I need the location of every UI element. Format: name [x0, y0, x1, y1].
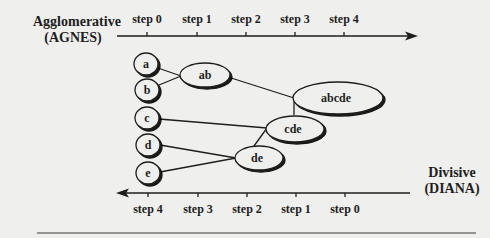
- svg-text:e: e: [145, 166, 151, 180]
- leaf-node-c: c: [135, 107, 159, 129]
- leaf-node-a: a: [134, 53, 158, 75]
- cluster-node-abcde: abcde: [293, 82, 383, 114]
- svg-text:a: a: [143, 57, 149, 71]
- cluster-node-de: de: [235, 146, 283, 170]
- svg-text:b: b: [144, 83, 151, 97]
- cluster-node-ab: ab: [180, 63, 230, 87]
- leaf-node-b: b: [135, 79, 159, 101]
- diagram-canvas: a b c d e ab abcde cde: [0, 0, 490, 238]
- divisive-axis: [124, 193, 410, 197]
- svg-text:d: d: [145, 138, 152, 152]
- svg-text:cde: cde: [284, 122, 302, 136]
- agglomerative-axis: [117, 32, 410, 36]
- svg-text:c: c: [144, 111, 150, 125]
- leaf-node-e: e: [136, 162, 160, 184]
- hierarchical-clustering-diagram: Agglomerative (AGNES) Divisive (DIANA) s…: [0, 0, 490, 238]
- svg-text:de: de: [251, 151, 264, 165]
- svg-text:abcde: abcde: [321, 91, 352, 105]
- leaf-node-d: d: [136, 134, 160, 156]
- cluster-node-cde: cde: [266, 116, 324, 142]
- svg-text:ab: ab: [199, 68, 212, 82]
